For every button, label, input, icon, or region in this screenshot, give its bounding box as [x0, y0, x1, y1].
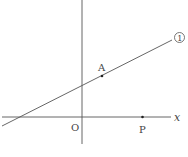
line-1-label: 1 [175, 33, 185, 43]
x-axis-label: x [174, 111, 181, 124]
point-a [101, 75, 104, 78]
point-a-label: A [97, 62, 106, 73]
point-p-label: P [139, 124, 146, 135]
line-1 [2, 40, 172, 126]
origin-label: O [71, 122, 79, 133]
coordinate-diagram: x O A P 1 [0, 0, 188, 157]
line-1-label-number: 1 [177, 34, 182, 43]
point-p [141, 116, 144, 119]
